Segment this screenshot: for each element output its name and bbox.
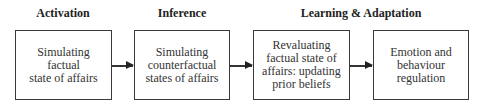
- arrow-inference-to-revaluating: [230, 65, 252, 67]
- stage-label-learning-adaptation: Learning & Adaptation: [253, 6, 469, 21]
- box-simulating-counterfactual: Simulating counterfactual states of affa…: [134, 30, 230, 100]
- box-line: Simulating: [29, 46, 97, 59]
- box-line: counterfactual: [145, 59, 218, 72]
- box-text: Simulating counterfactual states of affa…: [145, 46, 218, 85]
- box-text: Revaluating factual state of affairs: up…: [262, 39, 341, 91]
- box-emotion-behaviour-regulation: Emotion and behaviour regulation: [373, 30, 469, 100]
- box-text: Simulating factual state of affairs: [29, 46, 97, 85]
- box-line: prior beliefs: [262, 78, 341, 91]
- stage-label-activation: Activation: [15, 6, 111, 21]
- stage-label-inference: Inference: [134, 6, 230, 21]
- box-line: Simulating: [145, 46, 218, 59]
- box-line: factual: [29, 59, 97, 72]
- box-line: regulation: [390, 72, 452, 85]
- box-line: states of affairs: [145, 72, 218, 85]
- arrow-activation-to-inference: [112, 65, 133, 67]
- box-simulating-factual: Simulating factual state of affairs: [15, 30, 112, 100]
- box-line: state of affairs: [29, 72, 97, 85]
- box-line: behaviour: [390, 59, 452, 72]
- arrow-revaluating-to-regulation: [350, 65, 372, 67]
- box-revaluating-factual: Revaluating factual state of affairs: up…: [253, 30, 350, 100]
- box-text: Emotion and behaviour regulation: [390, 46, 452, 85]
- box-line: Emotion and: [390, 46, 452, 59]
